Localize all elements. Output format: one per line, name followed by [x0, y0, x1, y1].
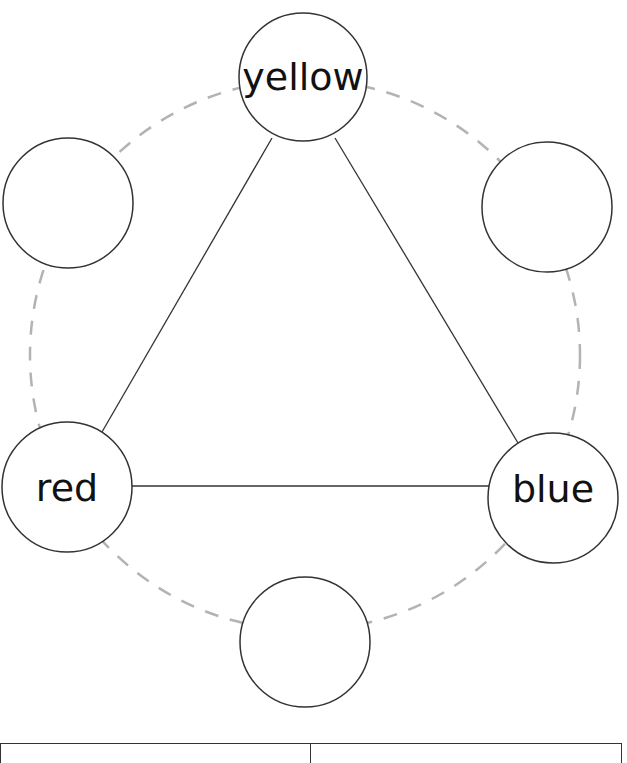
node-label-red: red: [36, 466, 98, 510]
node-label-yellow: yellow: [242, 55, 363, 99]
table-cell-1: [1, 744, 311, 763]
node-label-blue: blue: [512, 467, 594, 511]
node-yellow: yellow: [239, 13, 367, 141]
node-red: red: [2, 422, 132, 552]
answer-table: [0, 743, 622, 763]
table-cell-2: [311, 744, 621, 763]
node-upper-left-empty: [3, 138, 133, 268]
node-upper-right-empty: [482, 142, 612, 272]
node-blue: blue: [488, 433, 618, 563]
node-bottom-empty: [240, 577, 370, 707]
